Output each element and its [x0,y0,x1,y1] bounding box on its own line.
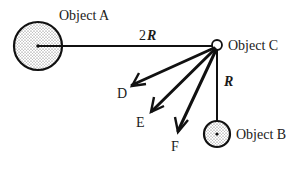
object-a-label: Object A [59,8,110,23]
arrow-e-shaft [152,49,215,111]
arrow-f-label: F [171,139,179,154]
distance-ac-label: 2R [139,28,156,43]
object-b-label: Object B [236,127,286,142]
arrow-e [151,49,215,112]
arrow-e-label: E [136,115,145,130]
object-b [204,121,230,147]
gravity-diagram: Object A 2R Object C R Object B D E F [0,0,299,170]
distance-cb-label: R [223,74,233,89]
arrow-d-label: D [117,86,127,101]
object-c-label: Object C [228,38,278,53]
object-b-center [215,132,218,135]
